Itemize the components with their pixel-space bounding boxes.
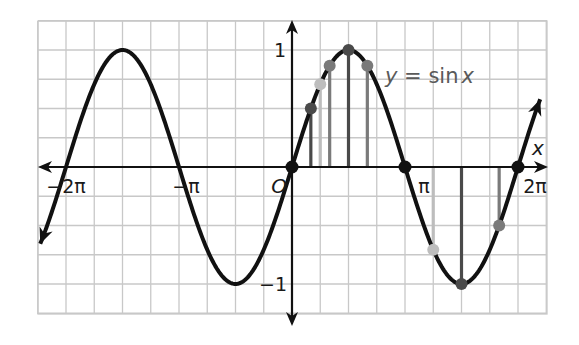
y-tick-1: 1	[274, 39, 286, 61]
x-tick-neg-pi: −π	[172, 175, 199, 197]
sine-graph: −2π −π O π 2π 1 −1 x y = sinx	[0, 0, 579, 345]
stem-point	[305, 103, 317, 115]
stem-point	[427, 244, 439, 256]
stem-point	[343, 44, 355, 56]
zero-point	[399, 161, 412, 174]
stem-point	[493, 220, 505, 232]
x-axis-label: x	[531, 136, 544, 160]
zero-point	[512, 161, 525, 174]
y-tick-neg-1: −1	[259, 273, 287, 295]
x-tick-pi: π	[418, 175, 429, 197]
function-label-lhs: y	[384, 64, 398, 88]
x-tick-neg-2pi: −2π	[46, 175, 85, 197]
x-tick-2pi: 2π	[523, 175, 547, 197]
function-label-var: x	[460, 64, 474, 88]
origin-label: O	[271, 174, 287, 198]
function-label-eq: = sin	[397, 64, 458, 88]
function-label: y = sinx	[384, 64, 474, 88]
stem-point	[361, 60, 373, 72]
stem-point	[314, 78, 326, 90]
stem-point	[324, 60, 336, 72]
zero-point	[286, 161, 299, 174]
stem-point	[456, 278, 468, 290]
